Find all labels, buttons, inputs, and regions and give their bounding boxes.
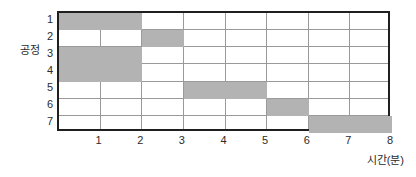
x-axis-tick-label: 2: [130, 135, 150, 146]
y-axis-tick-label: 3: [40, 48, 53, 59]
y-axis-tick-label: 5: [40, 82, 53, 93]
x-axis-tick-label: 5: [255, 135, 275, 146]
task-bar: [59, 64, 142, 81]
x-axis-tick-label: 7: [338, 135, 358, 146]
x-axis-title: 시간(분): [367, 154, 404, 166]
x-axis-tick-label: 1: [89, 135, 109, 146]
y-axis-tick-label: 7: [40, 116, 53, 127]
x-axis-tick-label: 4: [214, 135, 234, 146]
task-bar: [184, 82, 267, 99]
task-bar: [59, 47, 142, 64]
y-axis-title: 공정: [6, 44, 40, 57]
task-bar: [142, 30, 184, 47]
x-axis-tick-label: 3: [172, 135, 192, 146]
y-axis-tick-label: 2: [40, 31, 53, 42]
x-axis-tick-label: 6: [297, 135, 317, 146]
task-bar: [267, 99, 309, 116]
y-axis-tick-label: 4: [40, 65, 53, 76]
task-bars: [59, 13, 388, 129]
y-axis-tick-label: 6: [40, 99, 53, 110]
gantt-chart: 공정 1234567 12345678 시간(분): [0, 0, 416, 177]
plot-area: [57, 11, 390, 131]
task-bar: [59, 13, 142, 30]
y-axis-tick-label: 1: [40, 14, 53, 25]
x-axis-tick-label: 8: [380, 135, 400, 146]
task-bar: [309, 116, 392, 133]
